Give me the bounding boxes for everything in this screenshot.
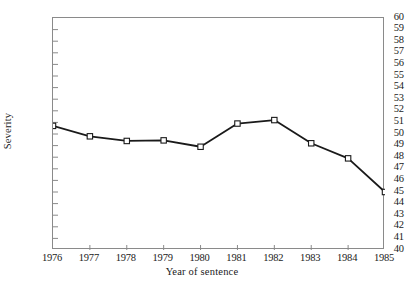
figure-caption: [0, 288, 404, 296]
x-axis-title: Year of sentence: [0, 266, 404, 277]
x-axis-tick-label: 1985: [362, 252, 406, 263]
